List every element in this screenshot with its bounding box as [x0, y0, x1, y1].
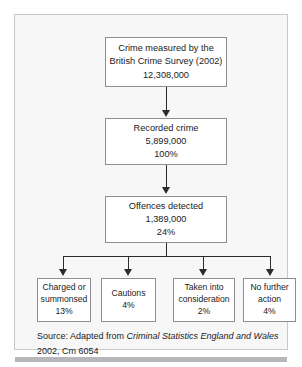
node-line: 1,389,000 — [146, 213, 187, 226]
source-suffix: 2002, Cm 6054 — [37, 346, 99, 356]
connector-drop — [128, 256, 129, 270]
flow-node-offences-detected: Offences detected 1,389,000 24% — [105, 196, 227, 243]
connector-drop — [270, 256, 271, 270]
flow-node-no-further-action: No further action 4% — [243, 278, 296, 322]
node-line: summonsed — [41, 294, 88, 306]
node-line: consideration — [178, 294, 229, 306]
node-line: Crime measured by the — [118, 42, 214, 55]
node-line: 5,899,000 — [146, 135, 187, 148]
source-title: Criminal Statistics England and Wales — [127, 331, 279, 341]
arrowhead-icon — [266, 269, 274, 276]
node-line: Offences detected — [129, 200, 203, 213]
bottom-rule — [15, 357, 287, 362]
node-line: 100% — [154, 148, 178, 161]
flow-node-charged-or-summonsed: Charged or summonsed 13% — [37, 278, 91, 322]
flow-node-crime-measured: Crime measured by the British Crime Surv… — [105, 37, 227, 87]
connector-distribution-bus — [63, 256, 270, 257]
connector-stem — [166, 165, 167, 188]
source-prefix: Source: Adapted from — [37, 331, 127, 341]
node-line: action — [258, 294, 281, 306]
node-line: Cautions — [112, 288, 146, 300]
figure-panel: Crime measured by the British Crime Surv… — [14, 14, 288, 350]
node-line: Charged or — [43, 282, 86, 294]
connector-stem — [166, 243, 167, 256]
arrowhead-icon — [59, 269, 67, 276]
connector-stem — [166, 87, 167, 111]
node-line: 2% — [198, 306, 210, 318]
arrowhead-icon — [124, 269, 132, 276]
node-line: 13% — [55, 306, 72, 318]
node-line: 24% — [157, 226, 175, 239]
flow-node-taken-into-consideration: Taken into consideration 2% — [173, 278, 235, 322]
node-line: Recorded crime — [134, 122, 199, 135]
arrowhead-icon — [199, 269, 207, 276]
node-line: 4% — [122, 300, 134, 312]
flowchart-figure: Crime measured by the British Crime Surv… — [0, 0, 302, 367]
node-line: 4% — [263, 306, 275, 318]
flow-node-recorded-crime: Recorded crime 5,899,000 100% — [105, 118, 227, 165]
connector-drop — [203, 256, 204, 270]
node-line: No further — [250, 282, 288, 294]
node-line: Taken into — [184, 282, 223, 294]
source-note: Source: Adapted from Criminal Statistics… — [37, 329, 283, 358]
node-line: British Crime Survey (2002) — [110, 55, 223, 68]
arrowhead-icon — [162, 110, 170, 117]
arrowhead-icon — [162, 187, 170, 194]
connector-drop — [63, 256, 64, 270]
flow-node-cautions: Cautions 4% — [101, 278, 156, 322]
node-line: 12,308,000 — [143, 69, 189, 82]
